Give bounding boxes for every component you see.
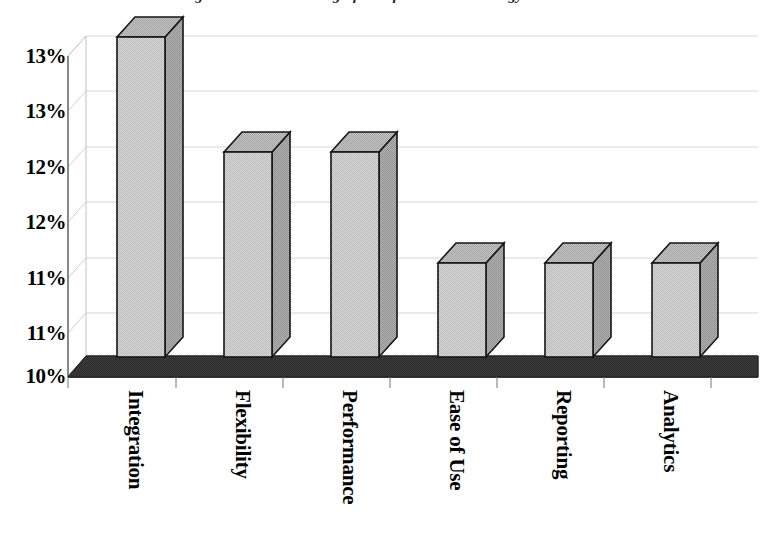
ytick-label-5: 11% <box>8 321 66 346</box>
xtick-label-reporting: Reporting <box>551 390 576 533</box>
bar-flexibility <box>224 132 290 357</box>
bar-ease-of-use <box>438 243 504 357</box>
ytick-label-3: 12% <box>8 210 66 235</box>
bar-chart: Figure 1: Most valued significant factor… <box>0 0 762 533</box>
bar-performance <box>331 132 397 357</box>
bar-analytics <box>652 243 718 357</box>
ytick-label-1: 13% <box>8 99 66 124</box>
plot-area <box>0 0 762 533</box>
ytick-label-6: 10% <box>8 364 66 389</box>
xtick-label-ease-of-use: Ease of Use <box>444 390 469 533</box>
axis-wall <box>68 36 86 377</box>
floor-plane <box>68 356 758 377</box>
xtick-label-flexibility: Flexibility <box>230 390 255 533</box>
bar-reporting <box>545 243 611 357</box>
bar-integration <box>117 17 183 357</box>
xaxis-ticks <box>68 377 758 388</box>
xtick-label-performance: Performance <box>337 390 362 533</box>
ytick-label-2: 12% <box>8 155 66 180</box>
xtick-label-analytics: Analytics <box>658 390 683 533</box>
xtick-label-integration: Integration <box>123 390 148 533</box>
ytick-label-4: 11% <box>8 266 66 291</box>
ytick-label-0: 13% <box>8 44 66 69</box>
